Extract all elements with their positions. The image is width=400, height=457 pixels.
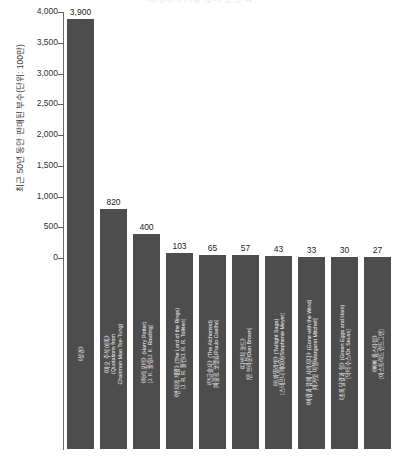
bar-group[interactable]: 30《초록 달걀과 햄》(Green Eggs and Ham)[닥터 수스/D…	[330, 12, 359, 450]
bar-category-text: 《바람과 함께 사라지다》(Gone with the Wind)[마거릿 미첼…	[305, 300, 318, 409]
chart-title: 세계에서 가장 많이 팔린 책	[0, 0, 400, 4]
bar-category-text: 《다빈치 코드》[댄 브라운/Dan Brown]	[239, 328, 252, 381]
bar-category-label: 《성경》	[66, 258, 95, 450]
y-tick-label: 4,000	[37, 6, 58, 16]
bar-group[interactable]: 57《다빈치 코드》[댄 브라운/Dan Brown]	[231, 12, 260, 450]
bar-category-label: 《삐삐 롱스타킹》[아스트리드 린드그렌]	[363, 258, 392, 450]
bar-category-label: 《반지의 제왕》(The Lord of the Rings)[J. R. R.…	[165, 258, 194, 450]
bar-category-text: 《성경》	[77, 344, 83, 364]
bar-category-text: 《삐삐 롱스타킹》[아스트리드 린드그렌]	[371, 329, 384, 379]
bar-category-text: 《초록 달걀과 햄》(Green Eggs and Ham)[닥터 수스/Dr.…	[338, 305, 351, 404]
bar-value-label: 27	[355, 245, 400, 255]
bar-category-label: 《바람과 함께 사라지다》(Gone with the Wind)[마거릿 미첼…	[297, 258, 326, 450]
bar-value-label: 3,900	[58, 7, 103, 17]
y-tick-label: 500	[44, 221, 58, 231]
bar-group[interactable]: 103《반지의 제왕》(The Lord of the Rings)[J. R.…	[165, 12, 194, 450]
bar-chart: 세계에서 가장 많이 팔린 책 최근 50년 동안 판매된 부수(단위: 100…	[0, 0, 400, 457]
y-tick-label: 1,000	[37, 191, 58, 201]
bar-group[interactable]: 27《삐삐 롱스타킹》[아스트리드 린드그렌]	[363, 12, 392, 450]
bar-category-text: 《트와일라잇》(Twilight Saga)[스테프니 메이어/Stepheni…	[272, 313, 285, 395]
bar-category-text: 《연금술사》(The Alchemist)[파울로 코엘료/Paulo Coel…	[206, 320, 219, 388]
bar-category-text: 《해리 포터》(Harry Potter)[J. K. 롤링/J. K. Row…	[140, 322, 153, 386]
y-tick-label: 2,500	[37, 98, 58, 108]
y-tick-label: 1,500	[37, 160, 58, 170]
bar-category-label: 《다빈치 코드》[댄 브라운/Dan Brown]	[231, 258, 260, 450]
bar-category-text: 《반지의 제왕》(The Lord of the Rings)[J. R. R.…	[173, 308, 186, 400]
bar-value-label: 820	[91, 197, 136, 207]
bar-category-label: 《해리 포터》(Harry Potter)[J. K. 롤링/J. K. Row…	[132, 258, 161, 450]
bar-category-label: 《초록 달걀과 햄》(Green Eggs and Ham)[닥터 수스/Dr.…	[330, 258, 359, 450]
bar-group[interactable]: 3,900《성경》	[66, 12, 95, 450]
bar-group[interactable]: 65《연금술사》(The Alchemist)[파울로 코엘료/Paulo Co…	[198, 12, 227, 450]
y-axis-title: 최근 50년 동안 판매된 부수(단위: 100만)	[13, 33, 25, 203]
bar-group[interactable]: 43《트와일라잇》(Twilight Saga)[스테프니 메이어/Stephe…	[264, 12, 293, 450]
bar-category-text: 《마오 주석 어록》(Quotations fromChairman Mao T…	[104, 324, 123, 385]
bar-group[interactable]: 400《해리 포터》(Harry Potter)[J. K. 롤링/J. K. …	[132, 12, 161, 450]
bar-group[interactable]: 33《바람과 함께 사라지다》(Gone with the Wind)[마거릿 …	[297, 12, 326, 450]
bar-value-label: 400	[124, 222, 169, 232]
y-tick-label: 2,000	[37, 129, 58, 139]
y-tick-label: 3,000	[37, 68, 58, 78]
y-tick-label: 0	[53, 252, 58, 262]
bar-category-label: 《마오 주석 어록》(Quotations fromChairman Mao T…	[99, 258, 128, 450]
bar-category-label: 《트와일라잇》(Twilight Saga)[스테프니 메이어/Stepheni…	[264, 258, 293, 450]
bar-category-label: 《연금술사》(The Alchemist)[파울로 코엘료/Paulo Coel…	[198, 258, 227, 450]
y-tick-label: 3,500	[37, 37, 58, 47]
bar-series: 3,900《성경》820《마오 주석 어록》(Quotations fromCh…	[64, 12, 394, 450]
